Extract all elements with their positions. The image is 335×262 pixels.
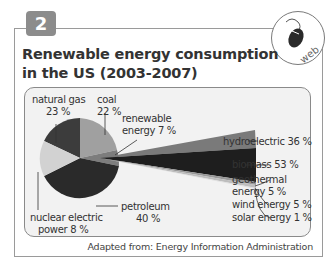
label-geothermal-line2: energy 5 % [232, 186, 286, 198]
label-petroleum-value: 40 % [136, 213, 160, 225]
label-renewable-line2: energy 7 % [122, 125, 176, 137]
label-biomass: biomass 53 % [232, 159, 299, 171]
label-renewable-line1: renewable [122, 113, 171, 125]
label-natural-gas-name: natural gas [32, 94, 85, 106]
label-coal-name: coal [97, 94, 116, 106]
label-natural-gas-value: 23 % [46, 106, 70, 118]
label-petroleum-name: petroleum [121, 201, 170, 213]
label-hydroelectric: hydroelectric 36 % [223, 136, 312, 148]
label-solar: solar energy 1 % [232, 212, 312, 224]
label-wind: wind energy 5 % [232, 199, 311, 211]
source-caption: Adapted from: Energy Information Adminis… [87, 241, 313, 252]
label-coal-value: 22 % [97, 106, 121, 118]
label-geothermal-line1: geothermal [232, 174, 287, 186]
label-nuclear-line1: nuclear electric [30, 212, 103, 224]
label-nuclear-line2: power 8 % [38, 224, 88, 236]
